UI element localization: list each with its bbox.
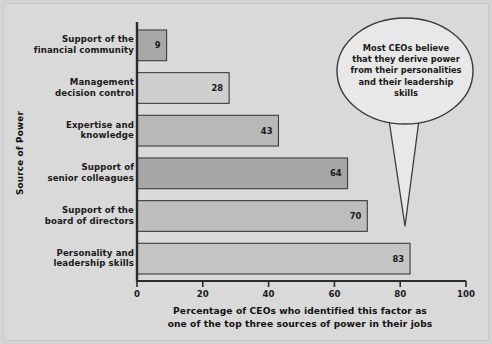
callout-text: Most CEOs believethat they derive powerf…	[344, 43, 468, 100]
callout-tail-pointer	[389, 120, 419, 226]
x-axis-title-line1: Percentage of CEOs who identified this f…	[130, 305, 470, 318]
bar-value-label: 28	[195, 83, 223, 93]
x-tick-label: 20	[188, 289, 218, 299]
callout-text-line: that they derive power	[344, 54, 468, 65]
category-label: Support of theboard of directors	[22, 205, 134, 226]
x-tick-label: 40	[254, 289, 284, 299]
x-axis-title: Percentage of CEOs who identified this f…	[130, 305, 470, 330]
callout-text-line: Most CEOs believe	[344, 43, 468, 54]
x-axis-title-line2: one of the top three sources of power in…	[130, 318, 470, 331]
bar-value-label: 9	[133, 40, 161, 50]
x-tick-label: 0	[122, 289, 152, 299]
bar-value-label: 64	[314, 168, 342, 178]
category-label: Expertise andknowledge	[22, 120, 134, 141]
bar	[137, 243, 410, 274]
y-axis-title: Source of Power	[15, 93, 25, 213]
callout-text-line: from their personalities	[344, 65, 468, 76]
category-label: Managementdecision control	[22, 77, 134, 98]
bar-value-label: 43	[244, 126, 272, 136]
x-tick-label: 80	[385, 289, 415, 299]
category-label: Support of thefinancial community	[22, 34, 134, 55]
x-tick-label: 60	[319, 289, 349, 299]
bar-value-label: 83	[376, 254, 404, 264]
x-tick-label: 100	[451, 289, 481, 299]
chart-figure: Support of thefinancial communityManagem…	[0, 0, 492, 344]
callout-text-line: skills	[344, 88, 468, 99]
category-label: Support ofsenior colleagues	[22, 162, 134, 183]
category-label: Personality andleadership skills	[22, 248, 134, 269]
callout-text-line: and their leadership	[344, 77, 468, 88]
bar-value-label: 70	[333, 211, 361, 221]
